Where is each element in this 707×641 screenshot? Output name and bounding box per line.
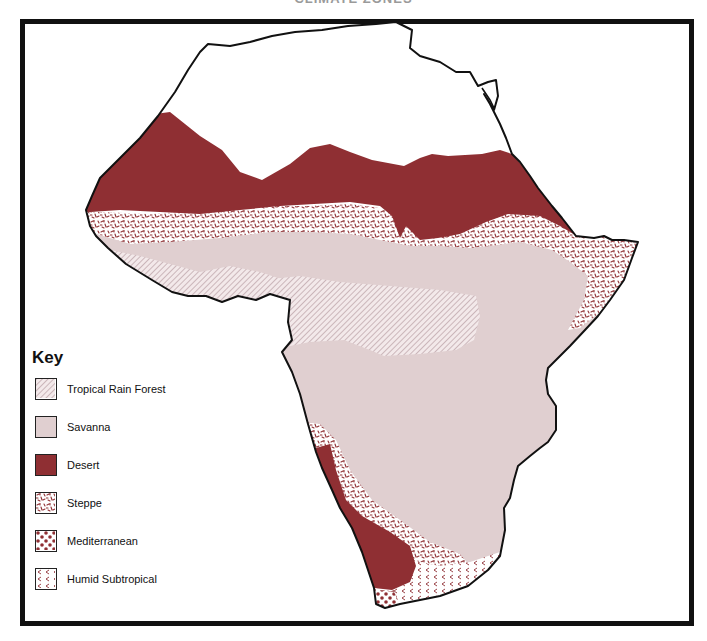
key-label: Tropical Rain Forest xyxy=(67,383,166,395)
steppe-swatch-icon xyxy=(35,492,57,514)
key-item-humid-subtropical: Humid Subtropical xyxy=(30,568,166,590)
key-item-rainforest: Tropical Rain Forest xyxy=(30,378,166,400)
key-label: Humid Subtropical xyxy=(67,573,157,585)
key-label: Savanna xyxy=(67,421,110,433)
humid-subtropical-swatch-icon xyxy=(35,568,57,590)
key-item-steppe: Steppe xyxy=(30,492,166,514)
map-key: Key Tropical Rain Forest Savanna Desert … xyxy=(30,348,166,606)
key-item-mediterranean: Mediterranean xyxy=(30,530,166,552)
key-label: Mediterranean xyxy=(67,535,138,547)
key-item-savanna: Savanna xyxy=(30,416,166,438)
key-label: Desert xyxy=(67,459,99,471)
rainforest-swatch-icon xyxy=(35,378,57,400)
desert-swatch-icon xyxy=(35,454,57,476)
mediterranean-swatch-icon xyxy=(35,530,57,552)
key-item-desert: Desert xyxy=(30,454,166,476)
savanna-swatch-icon xyxy=(35,416,57,438)
key-label: Steppe xyxy=(67,497,102,509)
key-title: Key xyxy=(32,348,166,368)
